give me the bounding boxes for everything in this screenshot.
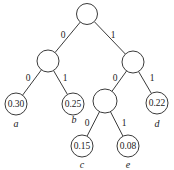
internal-node [122, 51, 144, 73]
leaf-node-b: 0.25 [62, 93, 84, 115]
node-probability: 0.15 [74, 141, 91, 151]
leaf-symbol: c [80, 159, 85, 170]
leaf-node-d: 0.22 [146, 92, 168, 114]
leaf-symbol: a [14, 118, 19, 129]
node-circle [37, 50, 59, 72]
edge-bit-label: 0 [61, 30, 66, 40]
internal-node [77, 4, 98, 25]
internal-node [93, 89, 117, 113]
tree-edge [55, 22, 80, 52]
internal-node [37, 50, 59, 72]
leaf-symbol: b [72, 114, 77, 125]
node-probability: 0.30 [8, 99, 25, 109]
node-probability: 0.08 [120, 141, 137, 151]
leaf-node-e: 0.08 [117, 135, 139, 157]
edge-bit-label: 1 [63, 73, 68, 83]
edge-bit-label: 0 [26, 73, 31, 83]
node-circle [122, 51, 144, 73]
edge-bit-label: 0 [85, 118, 90, 128]
edge-bit-label: 0 [113, 73, 118, 83]
leaf-node-c: 0.15 [71, 135, 93, 157]
edge-bit-labels: 01010101 [26, 30, 155, 128]
edge-bit-label: 1 [150, 73, 155, 83]
edge-bit-label: 1 [122, 118, 127, 128]
leaf-node-a: 0.30 [5, 93, 27, 115]
node-probability: 0.25 [65, 99, 82, 109]
huffman-tree-diagram: 01010101 0.300.250.220.150.08 abdce [0, 0, 174, 169]
leaf-symbol: e [126, 159, 131, 170]
leaf-symbol: d [155, 118, 161, 129]
node-circle [93, 89, 117, 113]
edge-bit-label: 1 [111, 30, 116, 40]
node-circle [77, 4, 98, 25]
node-probability: 0.22 [149, 98, 166, 108]
